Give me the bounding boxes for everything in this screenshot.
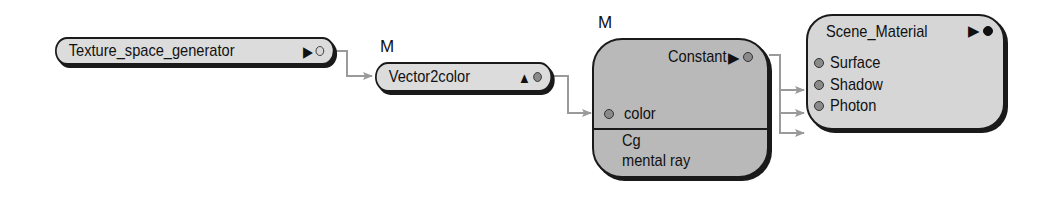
wire-constant-to-photon — [780, 113, 804, 133]
triangle-up-icon[interactable]: ▲ — [518, 70, 531, 85]
play-triangle-icon[interactable]: ▶ — [968, 23, 980, 38]
node-texture-space-generator[interactable]: Texture_space_generator ▶ — [55, 37, 335, 65]
input-label: color — [624, 104, 656, 124]
output-port-icon[interactable] — [743, 52, 753, 62]
node-header: Constant ▶ — [668, 47, 753, 67]
play-triangle-icon[interactable]: ▶ — [303, 44, 313, 59]
divider — [594, 128, 767, 130]
input-row-color[interactable]: color — [604, 104, 661, 124]
input-row-surface[interactable]: Surface — [814, 53, 889, 73]
node-graph-canvas[interactable]: Texture_space_generator ▶ M Vector2color… — [0, 0, 1057, 198]
output-port-icon[interactable] — [316, 46, 325, 56]
input-port-icon[interactable] — [814, 58, 824, 68]
node-title: Vector2color — [389, 67, 513, 87]
input-label: Surface — [830, 53, 880, 73]
wire-constant-to-surface — [769, 55, 804, 90]
node-constant[interactable]: Constant ▶ color Cg mental ray — [592, 38, 769, 178]
node-title: Scene_Material — [826, 22, 928, 42]
input-label: Photon — [830, 96, 876, 116]
input-port-icon[interactable] — [814, 101, 824, 111]
wire-vector2color-to-constant — [553, 76, 591, 113]
play-triangle-icon[interactable]: ▶ — [728, 50, 740, 65]
node-title: Texture_space_generator — [69, 41, 298, 61]
input-port-icon[interactable] — [604, 109, 614, 119]
node-vector2color[interactable]: Vector2color ▲ — [375, 62, 552, 92]
output-port-icon[interactable] — [533, 72, 542, 82]
node-title: Constant — [668, 47, 727, 67]
footer-line: Cg — [622, 131, 644, 151]
node-output: ▶ — [962, 23, 993, 38]
footer-line: mental ray — [622, 151, 701, 171]
wire-texture-to-vector2color — [336, 51, 372, 76]
input-port-icon[interactable] — [814, 80, 824, 90]
input-row-photon[interactable]: Photon — [814, 96, 884, 116]
output-port-icon[interactable] — [983, 26, 993, 36]
wire-constant-to-shadow — [780, 90, 804, 113]
m-badge: M — [380, 37, 394, 57]
m-badge: M — [598, 13, 612, 33]
input-row-shadow[interactable]: Shadow — [814, 75, 891, 95]
input-label: Shadow — [830, 75, 883, 95]
node-scene-material[interactable]: Scene_Material ▶ Surface Shadow Photon — [806, 14, 1005, 130]
node-header: Scene_Material — [826, 22, 944, 42]
